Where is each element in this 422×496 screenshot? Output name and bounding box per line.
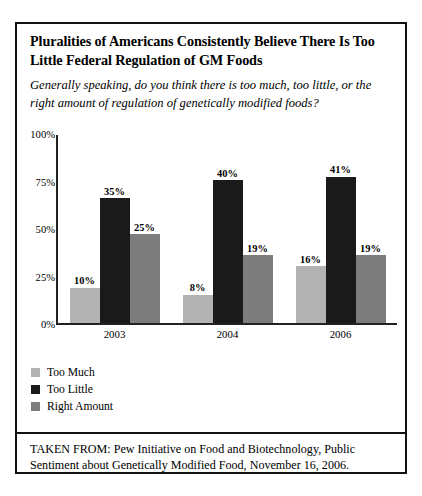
bar-value-label: 10% (74, 276, 95, 286)
chart-title: Pluralities of Americans Consistently Be… (30, 32, 390, 69)
source-note: TAKEN FROM: Pew Initiative on Food and B… (30, 441, 396, 474)
chart-plot-area: 100% 75% 50% 25% 0% 10% 35% (17, 122, 409, 360)
y-tick-100: 100% (13, 130, 55, 141)
bar-2003-right-amount: 25% (130, 234, 160, 323)
bar-value-label: 40% (217, 169, 238, 179)
y-axis-tick-labels: 100% 75% 50% 25% 0% (17, 122, 55, 360)
x-axis-line (56, 323, 397, 325)
bar-value-label: 25% (134, 223, 155, 233)
bar-2004-too-much: 8% (183, 295, 213, 324)
bar-2003-too-little: 35% (100, 198, 130, 323)
legend-swatch-icon (31, 402, 40, 411)
y-tick-75: 75% (13, 177, 55, 188)
bar-value-label: 19% (247, 244, 268, 254)
chart-axes: 10% 35% 25% 2003 8% (56, 135, 397, 325)
y-tick-0: 0% (13, 320, 55, 331)
legend-item-right-amount: Right Amount (31, 398, 231, 415)
bar-2003-too-much: 10% (70, 288, 100, 324)
x-tick-2006: 2006 (330, 329, 352, 340)
legend-label-too-little: Too Little (47, 384, 93, 396)
y-tick-50: 50% (13, 225, 55, 236)
x-tick-2003: 2003 (104, 329, 126, 340)
bar-2006-right-amount: 19% (356, 255, 386, 323)
bar-value-label: 8% (190, 283, 206, 293)
chart-figure: Pluralities of Americans Consistently Be… (15, 22, 407, 474)
legend-label-right-amount: Right Amount (47, 401, 113, 413)
chart-legend: Too Much Too Little Right Amount (31, 364, 231, 415)
bar-value-label: 19% (360, 244, 381, 254)
bar-2006-too-little: 41% (326, 177, 356, 324)
bar-groups: 10% 35% 25% 2003 8% (58, 135, 397, 323)
bar-group-2003: 10% 35% 25% 2003 (69, 135, 161, 323)
legend-label-too-much: Too Much (47, 367, 95, 379)
legend-swatch-icon (31, 368, 40, 377)
bar-group-2004: 8% 40% 19% 2004 (182, 135, 274, 323)
legend-item-too-much: Too Much (31, 364, 231, 381)
x-tick-2004: 2004 (217, 329, 239, 340)
bar-value-label: 16% (300, 255, 321, 265)
bar-2006-too-much: 16% (296, 266, 326, 323)
source-divider (17, 432, 405, 434)
legend-item-too-little: Too Little (31, 381, 231, 398)
bar-2004-right-amount: 19% (243, 255, 273, 323)
bar-group-2006: 16% 41% 19% 2006 (295, 135, 387, 323)
bar-value-label: 41% (330, 165, 351, 175)
bar-value-label: 35% (104, 187, 125, 197)
bar-2004-too-little: 40% (213, 180, 243, 323)
chart-subtitle: Generally speaking, do you think there i… (30, 77, 392, 113)
legend-swatch-icon (31, 385, 40, 394)
y-tick-25: 25% (13, 272, 55, 283)
